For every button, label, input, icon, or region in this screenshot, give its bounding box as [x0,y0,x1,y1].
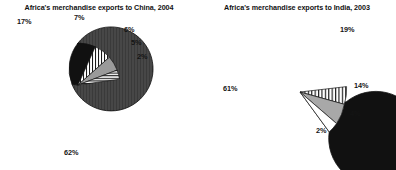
chart-title-india: Africa's merchandise exports to India, 2… [198,3,396,12]
pie-india [216,18,386,163]
pie-label-china-17: 17% [17,17,31,26]
pie-label-china-7: 7% [74,13,84,22]
chart-panel-india: Africa's merchandise exports to India, 2… [198,0,396,170]
chart-title-china: Africa's merchandise exports to China, 2… [0,3,198,12]
pie-chart-figure: Africa's merchandise exports to China, 2… [0,0,396,170]
pie-label-china-62: 62% [64,148,78,157]
pie-label-india-14: 14% [354,81,368,90]
chart-panel-china: Africa's merchandise exports to China, 2… [0,0,198,170]
pie-label-india-4: 4% [350,109,360,118]
pie-label-india-61: 61% [223,84,237,93]
pie-label-india-19: 19% [340,25,354,34]
pie-label-china-5: 5% [131,38,141,47]
pie-china [20,18,180,158]
pie-slice-china-17 [69,43,78,85]
pie-india-svg [216,18,386,163]
pie-label-china-2: 2% [137,52,147,61]
pie-label-china-6: 6% [124,25,134,34]
pie-label-india-2: 2% [316,126,326,135]
pie-china-svg [20,18,180,158]
